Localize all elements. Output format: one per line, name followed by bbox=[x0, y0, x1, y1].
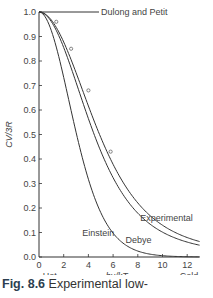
cold-label: Cold bbox=[180, 271, 199, 275]
y-tick-label: 0.6 bbox=[23, 105, 36, 115]
y-tick-label: 0.7 bbox=[23, 81, 36, 91]
y-tick-label: 1.0 bbox=[23, 7, 36, 17]
x-tick-label: 8 bbox=[135, 260, 140, 270]
experimental-point bbox=[70, 47, 73, 50]
y-tick-label: 0.4 bbox=[23, 154, 36, 164]
y-tick-label: 0.2 bbox=[23, 203, 36, 213]
annotation-dulong-and-petit: Dulong and Petit bbox=[101, 7, 168, 17]
annotation-einstein: Einstein bbox=[82, 228, 114, 238]
x-tick-label: 4 bbox=[86, 260, 91, 270]
x-tick-label: 0 bbox=[36, 260, 41, 270]
y-tick-label: 0.8 bbox=[23, 56, 36, 66]
y-tick-label: 0.1 bbox=[23, 228, 36, 238]
x-tick-label: 10 bbox=[157, 260, 167, 270]
y-tick-label: 0.3 bbox=[23, 179, 36, 189]
caption-text: Experimental low- bbox=[45, 277, 148, 291]
y-tick-label: 0.0 bbox=[23, 252, 36, 262]
x-axis-label: hν/kT bbox=[106, 271, 130, 275]
heat-capacity-chart: 0.00.10.20.30.40.50.60.70.80.91.00246810… bbox=[0, 0, 213, 275]
figure-caption: Fig. 8.6 Experimental low- bbox=[2, 277, 148, 291]
experimental-point bbox=[87, 89, 90, 92]
y-tick-label: 0.5 bbox=[23, 130, 36, 140]
y-tick-label: 0.9 bbox=[23, 32, 36, 42]
x-tick-label: 12 bbox=[182, 260, 192, 270]
curve-debye bbox=[39, 12, 200, 245]
experimental-point bbox=[109, 150, 112, 153]
y-axis-label: CV/3R bbox=[4, 121, 14, 148]
figure-number: Fig. 8.6 bbox=[2, 277, 45, 291]
annotation-debye: Debye bbox=[125, 235, 151, 245]
experimental-point bbox=[55, 20, 58, 23]
hot-label: Hot bbox=[43, 271, 58, 275]
x-tick-label: 2 bbox=[61, 260, 66, 270]
x-tick-label: 6 bbox=[111, 260, 116, 270]
annotation-experimental: Experimental bbox=[140, 213, 193, 223]
